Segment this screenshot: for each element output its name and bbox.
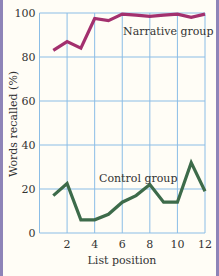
x-tick-label: 10	[170, 238, 184, 251]
y-tick-label: 60	[22, 95, 36, 108]
y-tick-label: 20	[22, 183, 36, 196]
x-tick-label: 12	[198, 238, 212, 251]
y-tick-label: 80	[22, 51, 36, 64]
line-chart: 020406080100 24681012 Narrative group Co…	[0, 0, 219, 276]
x-tick-label: 8	[146, 238, 153, 251]
x-axis-label: List position	[88, 254, 157, 267]
narrative-group-label: Narrative group	[123, 25, 213, 38]
x-axis-ticks: 24681012	[64, 238, 212, 251]
y-tick-label: 0	[29, 227, 36, 240]
y-tick-label: 40	[22, 139, 36, 152]
grid-lines	[40, 13, 206, 233]
y-tick-label: 100	[15, 7, 36, 20]
x-tick-label: 6	[119, 238, 126, 251]
y-axis-label: Words recalled (%)	[7, 71, 20, 177]
control-group-label: Control group	[99, 172, 178, 185]
x-tick-label: 2	[64, 238, 71, 251]
x-tick-label: 4	[91, 238, 98, 251]
